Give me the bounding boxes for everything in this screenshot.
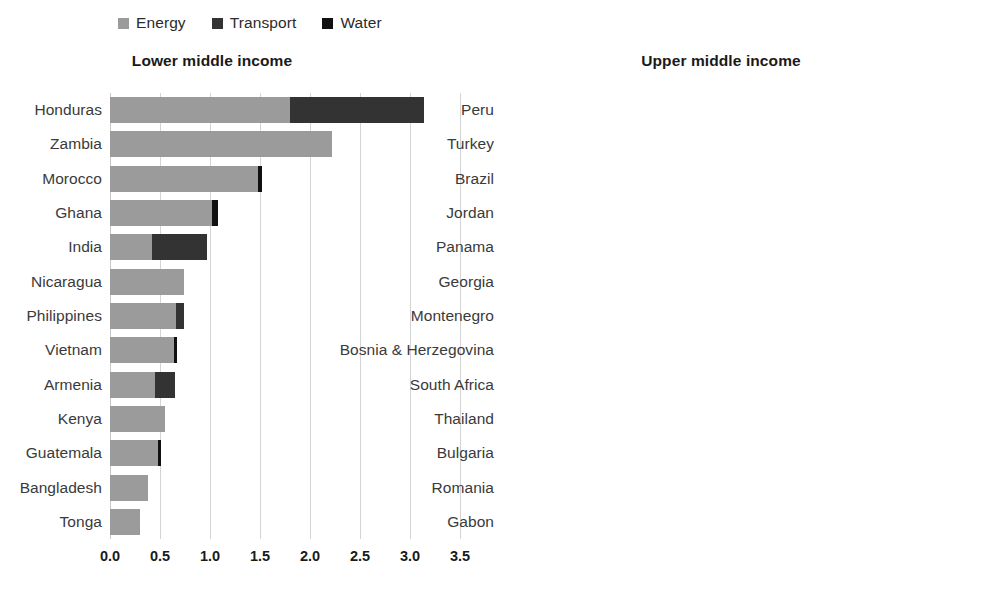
category-label: Bosnia & Herzegovina <box>214 337 494 363</box>
category-label: Georgia <box>214 269 494 295</box>
category-label: Gabon <box>214 509 494 535</box>
legend-label-water: Water <box>340 14 381 32</box>
category-label: Nicaragua <box>0 269 102 295</box>
panel-title-upper: Upper middle income <box>500 52 998 70</box>
legend-label-energy: Energy <box>136 14 186 32</box>
category-label: Bulgaria <box>214 440 494 466</box>
category-label: Peru <box>214 97 494 123</box>
category-label: Guatemala <box>0 440 102 466</box>
category-label: Ghana <box>0 200 102 226</box>
x-tick-label: 2.0 <box>300 548 320 564</box>
x-tick-label: 1.5 <box>250 548 270 564</box>
category-label: Vietnam <box>0 337 102 363</box>
category-label: Montenegro <box>214 303 494 329</box>
x-tick-label: 1.0 <box>200 548 220 564</box>
x-tick-label: 2.5 <box>350 548 370 564</box>
category-label: Tonga <box>0 509 102 535</box>
legend-swatch-energy-icon <box>118 18 129 29</box>
legend-item-transport: Transport <box>212 14 297 32</box>
category-label: Kenya <box>0 406 102 432</box>
category-label: Brazil <box>214 166 494 192</box>
legend-item-energy: Energy <box>118 14 186 32</box>
panel-title-lower: Lower middle income <box>0 52 470 70</box>
chart-legend: EnergyTransportWater <box>0 14 998 32</box>
legend-item-water: Water <box>322 14 381 32</box>
legend-swatch-water-icon <box>322 18 333 29</box>
legend-swatch-transport-icon <box>212 18 223 29</box>
x-tick-label: 3.0 <box>400 548 420 564</box>
category-label: Armenia <box>0 372 102 398</box>
category-label: Bangladesh <box>0 475 102 501</box>
category-label: Romania <box>214 475 494 501</box>
category-labels-upper: PeruTurkeyBrazilJordanPanamaGeorgiaMonte… <box>212 93 494 539</box>
category-label: South Africa <box>214 372 494 398</box>
category-label: Philippines <box>0 303 102 329</box>
category-label: Jordan <box>214 200 494 226</box>
x-tick-label: 0.5 <box>150 548 170 564</box>
category-label: Zambia <box>0 131 102 157</box>
category-label: India <box>0 234 102 260</box>
legend-label-transport: Transport <box>230 14 297 32</box>
category-label: Panama <box>214 234 494 260</box>
category-labels-lower: HondurasZambiaMoroccoGhanaIndiaNicaragua… <box>0 93 102 539</box>
panel-upper-middle-income: Upper middle income PeruTurkeyBrazilJord… <box>500 42 998 587</box>
category-label: Turkey <box>214 131 494 157</box>
category-label: Thailand <box>214 406 494 432</box>
x-tick-label: 0.0 <box>100 548 120 564</box>
x-tick-label: 3.5 <box>450 548 470 564</box>
category-label: Morocco <box>0 166 102 192</box>
category-label: Honduras <box>0 97 102 123</box>
